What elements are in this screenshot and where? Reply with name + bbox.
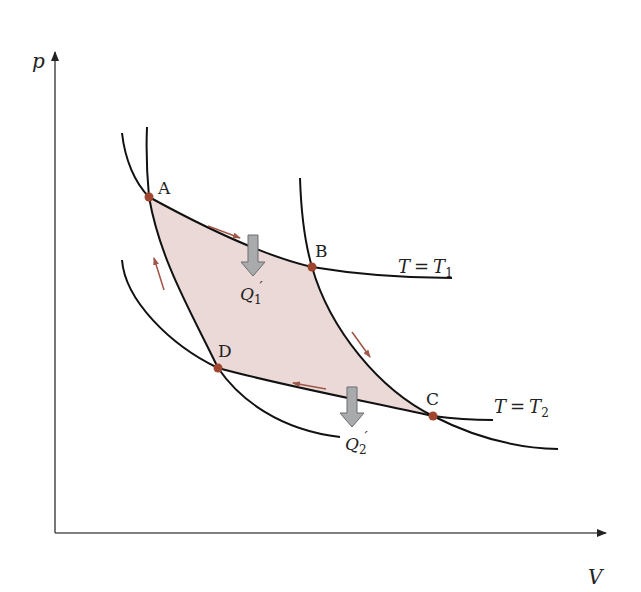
isotherm-t2-label: T=T2 (494, 396, 549, 420)
point-label-b: B (315, 241, 328, 261)
isotherm-t1-label: T=T1 (398, 256, 453, 280)
point-label-c: C (426, 389, 439, 409)
x-axis-label: V (588, 565, 605, 589)
y-axis-label: p (32, 49, 45, 73)
cycle-region (149, 197, 433, 416)
point-label-d: D (218, 341, 232, 361)
direction-arrow-da (154, 258, 164, 290)
heat-label-q1: Q1′ (240, 279, 264, 307)
axes (55, 52, 606, 533)
point-label-a: A (157, 178, 171, 198)
heat-label-q2: Q2′ (345, 429, 369, 457)
carnot-pv-diagram: p V Q1′ Q2′ T=T1 T=T2 A B C D (0, 0, 641, 592)
